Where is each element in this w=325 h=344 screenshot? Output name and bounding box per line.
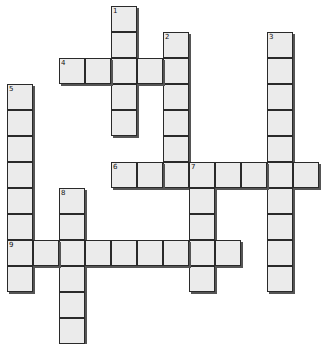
- crossword-cell[interactable]: [267, 162, 293, 188]
- crossword-cell[interactable]: [267, 58, 293, 84]
- crossword-cell[interactable]: [163, 240, 189, 266]
- crossword-cell[interactable]: [85, 58, 111, 84]
- crossword-cell[interactable]: [111, 84, 137, 110]
- crossword-cell[interactable]: [7, 214, 33, 240]
- crossword-cell[interactable]: [59, 214, 85, 240]
- crossword-cell[interactable]: [7, 266, 33, 292]
- crossword-cell[interactable]: [189, 266, 215, 292]
- crossword-cell[interactable]: 6: [111, 162, 137, 188]
- crossword-cell[interactable]: [267, 240, 293, 266]
- crossword-cell[interactable]: [189, 240, 215, 266]
- letter-input[interactable]: [8, 241, 32, 265]
- letter-input[interactable]: [60, 241, 84, 265]
- letter-input[interactable]: [268, 189, 292, 213]
- crossword-cell[interactable]: [163, 110, 189, 136]
- crossword-cell[interactable]: 5: [7, 84, 33, 110]
- letter-input[interactable]: [8, 189, 32, 213]
- crossword-cell[interactable]: [137, 240, 163, 266]
- crossword-cell[interactable]: [111, 58, 137, 84]
- crossword-cell[interactable]: [241, 162, 267, 188]
- letter-input[interactable]: [60, 59, 84, 83]
- crossword-cell[interactable]: [267, 136, 293, 162]
- crossword-cell[interactable]: [163, 84, 189, 110]
- letter-input[interactable]: [138, 163, 162, 187]
- crossword-cell[interactable]: [189, 214, 215, 240]
- letter-input[interactable]: [164, 59, 188, 83]
- crossword-cell[interactable]: [215, 240, 241, 266]
- letter-input[interactable]: [34, 241, 58, 265]
- letter-input[interactable]: [268, 241, 292, 265]
- crossword-cell[interactable]: [293, 162, 319, 188]
- letter-input[interactable]: [216, 241, 240, 265]
- crossword-cell[interactable]: [111, 32, 137, 58]
- letter-input[interactable]: [112, 163, 136, 187]
- crossword-cell[interactable]: [59, 240, 85, 266]
- crossword-cell[interactable]: [33, 240, 59, 266]
- letter-input[interactable]: [268, 137, 292, 161]
- letter-input[interactable]: [8, 267, 32, 291]
- crossword-cell[interactable]: [59, 292, 85, 318]
- letter-input[interactable]: [164, 111, 188, 135]
- crossword-cell[interactable]: [137, 162, 163, 188]
- letter-input[interactable]: [164, 85, 188, 109]
- crossword-cell[interactable]: [163, 58, 189, 84]
- crossword-cell[interactable]: [7, 162, 33, 188]
- letter-input[interactable]: [8, 85, 32, 109]
- letter-input[interactable]: [268, 215, 292, 239]
- letter-input[interactable]: [164, 241, 188, 265]
- letter-input[interactable]: [268, 33, 292, 57]
- crossword-cell[interactable]: [215, 162, 241, 188]
- crossword-cell[interactable]: [7, 110, 33, 136]
- letter-input[interactable]: [60, 319, 84, 343]
- crossword-cell[interactable]: [267, 84, 293, 110]
- crossword-cell[interactable]: 3: [267, 32, 293, 58]
- letter-input[interactable]: [190, 267, 214, 291]
- letter-input[interactable]: [216, 163, 240, 187]
- letter-input[interactable]: [138, 241, 162, 265]
- letter-input[interactable]: [268, 85, 292, 109]
- crossword-cell[interactable]: [189, 188, 215, 214]
- crossword-cell[interactable]: [111, 110, 137, 136]
- crossword-cell[interactable]: [111, 240, 137, 266]
- letter-input[interactable]: [190, 189, 214, 213]
- letter-input[interactable]: [190, 241, 214, 265]
- crossword-cell[interactable]: [267, 214, 293, 240]
- letter-input[interactable]: [60, 189, 84, 213]
- crossword-cell[interactable]: [59, 318, 85, 344]
- crossword-cell[interactable]: [163, 162, 189, 188]
- crossword-cell[interactable]: [7, 188, 33, 214]
- crossword-cell[interactable]: 4: [59, 58, 85, 84]
- crossword-cell[interactable]: [267, 110, 293, 136]
- letter-input[interactable]: [268, 111, 292, 135]
- letter-input[interactable]: [8, 215, 32, 239]
- crossword-cell[interactable]: 1: [111, 6, 137, 32]
- letter-input[interactable]: [112, 241, 136, 265]
- letter-input[interactable]: [112, 7, 136, 31]
- letter-input[interactable]: [60, 293, 84, 317]
- letter-input[interactable]: [8, 163, 32, 187]
- letter-input[interactable]: [164, 163, 188, 187]
- crossword-cell[interactable]: [267, 188, 293, 214]
- letter-input[interactable]: [112, 33, 136, 57]
- letter-input[interactable]: [86, 241, 110, 265]
- letter-input[interactable]: [86, 59, 110, 83]
- crossword-cell[interactable]: 9: [7, 240, 33, 266]
- letter-input[interactable]: [242, 163, 266, 187]
- crossword-cell[interactable]: [267, 266, 293, 292]
- crossword-cell[interactable]: [59, 266, 85, 292]
- letter-input[interactable]: [268, 163, 292, 187]
- letter-input[interactable]: [138, 59, 162, 83]
- letter-input[interactable]: [112, 111, 136, 135]
- crossword-cell[interactable]: [7, 136, 33, 162]
- letter-input[interactable]: [268, 267, 292, 291]
- letter-input[interactable]: [190, 215, 214, 239]
- letter-input[interactable]: [190, 163, 214, 187]
- letter-input[interactable]: [164, 33, 188, 57]
- letter-input[interactable]: [294, 163, 318, 187]
- crossword-cell[interactable]: [163, 136, 189, 162]
- letter-input[interactable]: [268, 59, 292, 83]
- crossword-cell[interactable]: 2: [163, 32, 189, 58]
- letter-input[interactable]: [8, 111, 32, 135]
- crossword-cell[interactable]: 8: [59, 188, 85, 214]
- letter-input[interactable]: [8, 137, 32, 161]
